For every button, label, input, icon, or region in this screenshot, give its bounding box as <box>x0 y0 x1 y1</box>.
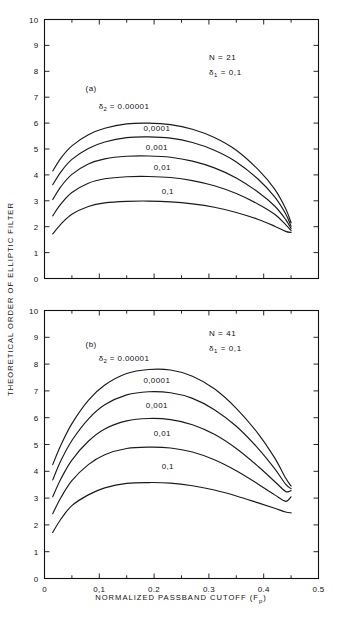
x-axis-title: NORMALIZED PASSBAND CUTOFF (Fp) <box>95 593 267 604</box>
y-tick-label: 3 <box>34 197 39 206</box>
y-tick-label: 10 <box>29 16 39 25</box>
y-tick-label: 1 <box>34 249 39 258</box>
curve-a-3 <box>53 176 291 230</box>
y-tick-label: 2 <box>34 223 39 232</box>
y-axis-title: THEORETICAL ORDER OF ELLIPTIC FILTER <box>6 202 15 396</box>
curve-label-a-0: δ2 = 0.00001 <box>99 102 150 112</box>
chart-panel-b: 00,10.20.30.40.5012345678910δ2 = 0.00001… <box>29 307 325 594</box>
x-tick-label: 0 <box>42 585 47 594</box>
y-tick-label: 0 <box>34 275 39 284</box>
curve-a-4 <box>53 201 291 234</box>
curve-label-b-0: δ2 = 0.00001 <box>99 354 150 364</box>
curve-label-a-3: 0,01 <box>154 163 171 172</box>
y-tick-label: 6 <box>34 119 39 128</box>
y-tick-label: 4 <box>34 467 39 476</box>
y-tick-label: 7 <box>34 93 39 102</box>
curve-label-a-4: 0,1 <box>162 187 174 196</box>
delta1-value: = 0,1 <box>218 344 242 353</box>
curve-b-1 <box>53 392 291 489</box>
y-tick-label: 7 <box>34 387 39 396</box>
curve-label-b-3: 0,01 <box>154 429 171 438</box>
delta1-annotation: δ1 = 0,1 <box>209 68 242 78</box>
x-tick-label: 0.5 <box>312 585 324 594</box>
y-tick-label: 8 <box>34 360 39 369</box>
y-tick-label: 8 <box>34 67 39 76</box>
y-tick-label: 3 <box>34 494 39 503</box>
y-tick-label: 5 <box>34 145 39 154</box>
curve-label-b-4: 0,1 <box>162 462 174 471</box>
curve-label-b-1: 0,0001 <box>143 376 170 385</box>
delta1-annotation: δ1 = 0,1 <box>209 344 242 354</box>
delta1-value: = 0,1 <box>218 68 242 77</box>
delta2-value: = 0.00001 <box>107 354 149 363</box>
y-tick-label: 1 <box>34 548 39 557</box>
delta2-value: = 0.00001 <box>107 102 149 111</box>
y-tick-label: 5 <box>34 441 39 450</box>
x-axis-title-close: ) <box>263 593 267 602</box>
curve-label-a-2: 0,001 <box>146 143 168 152</box>
elliptic-filter-order-figure: 012345678910δ2 = 0.000010,00010,0010,010… <box>0 0 337 618</box>
x-axis-title-main: NORMALIZED PASSBAND CUTOFF (F <box>95 593 259 602</box>
y-tick-label: 9 <box>34 333 39 342</box>
y-tick-label: 0 <box>34 575 39 584</box>
filter-length-annotation: N = 21 <box>209 53 236 62</box>
panel-letter-label: (b) <box>86 340 97 349</box>
y-tick-label: 4 <box>34 171 39 180</box>
curve-b-4 <box>53 483 291 533</box>
curve-b-3 <box>53 447 291 513</box>
figure-canvas: 012345678910δ2 = 0.000010,00010,0010,010… <box>0 0 337 618</box>
panel-letter-label: (a) <box>86 84 97 93</box>
y-tick-label: 2 <box>34 521 39 530</box>
curve-label-b-2: 0,001 <box>146 401 168 410</box>
y-tick-label: 10 <box>29 307 39 316</box>
y-tick-label: 9 <box>34 41 39 50</box>
filter-length-annotation: N = 41 <box>209 329 236 338</box>
plot-frame <box>45 20 319 279</box>
chart-panel-a: 012345678910δ2 = 0.000010,00010,0010,010… <box>29 16 319 284</box>
curve-a-1 <box>53 137 291 226</box>
curve-label-a-1: 0,0001 <box>143 124 170 133</box>
y-tick-label: 6 <box>34 414 39 423</box>
axis-titles: THEORETICAL ORDER OF ELLIPTIC FILTERNORM… <box>6 202 267 603</box>
